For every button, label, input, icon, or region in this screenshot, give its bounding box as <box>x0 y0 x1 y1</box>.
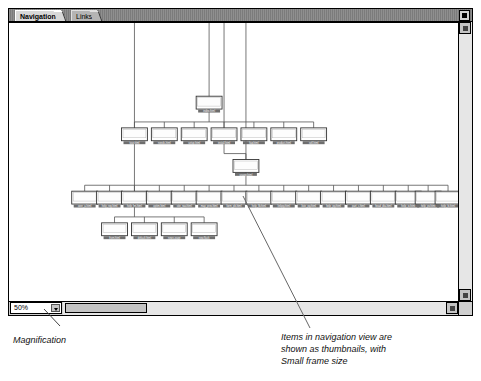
tree-node[interactable]: faq.html <box>241 128 267 145</box>
tree-node[interactable]: optim.html <box>146 191 172 208</box>
node-label: product.html <box>277 141 292 145</box>
node-thumbnail-inner <box>297 193 320 201</box>
tree-node[interactable]: default.html <box>131 223 157 240</box>
tree-node[interactable]: site_nav.html <box>171 191 197 208</box>
magnification-select[interactable]: 50% <box>10 302 62 314</box>
node-label: index.html <box>203 109 215 113</box>
node-thumbnail-inner <box>73 193 96 201</box>
node-label: optim.html <box>153 204 165 208</box>
chevron-down-icon[interactable] <box>51 304 60 312</box>
node-thumbnail-inner <box>173 193 196 201</box>
node-thumbnail-inner <box>372 193 395 201</box>
tree-node[interactable]: over_a.html <box>72 191 98 208</box>
tree-node[interactable]: map_prev.html <box>196 191 222 208</box>
vscroll-track[interactable] <box>459 22 472 301</box>
tab-strip: Navigation Links <box>9 9 472 22</box>
tree-node[interactable]: liste_pg.html <box>296 191 322 208</box>
node-thumbnail-inner <box>347 193 370 201</box>
horizontal-scrollbar[interactable]: 50% <box>9 301 458 315</box>
close-icon[interactable] <box>459 10 470 21</box>
node-label: form_pb.html <box>226 204 242 208</box>
node-label: from.html <box>109 236 120 240</box>
node-label: help_fm.html <box>127 204 142 208</box>
tab-links-skew <box>90 11 104 22</box>
navigation-window: Navigation Links index.htmltour.htmlneed… <box>8 8 473 316</box>
node-thumbnail-inner <box>163 224 186 232</box>
node-label: install.html <box>218 141 231 145</box>
node-label: tour.html <box>129 141 139 145</box>
vertical-scrollbar[interactable] <box>458 22 472 301</box>
navigation-tree: index.htmltour.htmlneeds.htmlsetup.htmli… <box>9 23 458 301</box>
node-label: default.html <box>138 236 152 240</box>
scroll-down-arrow-icon[interactable] <box>459 289 471 301</box>
node-label: sell.html <box>309 141 319 145</box>
tree-node[interactable]: tour.html <box>121 128 147 145</box>
node-thumbnail-inner <box>322 193 345 201</box>
node-thumbnail-inner <box>272 129 295 137</box>
tree-node[interactable]: needs.html <box>151 128 177 145</box>
hscroll-thumb[interactable] <box>65 303 147 313</box>
node-thumbnail-inner <box>103 224 126 232</box>
tree-node[interactable]: product.html <box>271 128 297 145</box>
tree-node[interactable]: help_fb.html <box>246 191 272 208</box>
tab-navigation-label: Navigation <box>20 13 56 20</box>
node-label: needs.html <box>158 141 171 145</box>
tree-node[interactable]: new.flash <box>191 223 217 240</box>
node-label: part_c.html <box>352 204 365 208</box>
tree-node[interactable]: from.html <box>102 223 128 240</box>
node-thumbnail-inner <box>272 193 295 201</box>
node-thumbnail-inner <box>198 98 221 106</box>
node-thumbnail-inner <box>234 161 257 169</box>
node-thumbnail-inner <box>183 129 206 137</box>
node-label: help_pv.html <box>421 204 436 208</box>
node-thumbnail-inner <box>437 193 458 201</box>
tree-node[interactable]: help_fx.html <box>435 191 458 208</box>
tree-node[interactable]: setup.html <box>181 128 207 145</box>
node-thumbnail-inner <box>213 129 236 137</box>
node-thumbnail-inner <box>133 224 156 232</box>
node-label: usage.html <box>240 173 253 177</box>
node-thumbnail-inner <box>123 129 146 137</box>
node-thumbnail-inner <box>247 193 270 201</box>
magnification-value: 50% <box>14 304 28 311</box>
tree-node[interactable]: linkpg.html <box>271 191 297 208</box>
node-label: help_ix.html <box>401 204 415 208</box>
annotation-thumbnails: Items in navigation view are shown as th… <box>281 331 392 367</box>
node-thumbnail-inner <box>193 224 216 232</box>
node-label: faq.html <box>249 141 259 145</box>
tree-node[interactable]: install.html <box>211 128 237 145</box>
tab-navigation[interactable]: Navigation <box>15 10 62 22</box>
tree-node[interactable]: usage.html <box>233 160 259 177</box>
node-thumbnail-inner <box>198 193 221 201</box>
tree-node[interactable]: index.html <box>196 96 222 113</box>
node-thumbnail-inner <box>242 129 265 137</box>
tree-node[interactable]: help_pg.html <box>321 191 347 208</box>
node-label: site_nav.html <box>177 204 192 208</box>
resize-corner[interactable] <box>458 301 472 315</box>
node-label: linkpg.html <box>278 204 291 208</box>
node-thumbnail-inner <box>98 193 121 201</box>
navigation-canvas[interactable]: index.htmltour.htmlneeds.htmlsetup.htmli… <box>9 22 458 301</box>
annotation-magnification: Magnification <box>13 334 66 346</box>
tree-node[interactable]: help_reg.html <box>97 191 123 208</box>
tree-node[interactable]: form_pb.html <box>221 191 247 208</box>
scroll-up-arrow-icon[interactable] <box>459 22 471 34</box>
node-label: setup.html <box>188 141 200 145</box>
node-label: map_prev.html <box>201 204 218 208</box>
node-label: head_dta.html <box>375 204 392 208</box>
node-thumbnail-inner <box>302 129 325 137</box>
node-label: new.flash <box>199 236 210 240</box>
tree-node[interactable]: head_dta.html <box>370 191 396 208</box>
node-label: help_reg.html <box>102 204 118 208</box>
tab-links[interactable]: Links <box>71 10 98 22</box>
scroll-right-arrow-icon[interactable] <box>446 302 458 314</box>
node-label: help_fb.html <box>252 204 267 208</box>
node-thumbnail-inner <box>153 129 176 137</box>
node-label: news.page <box>168 237 181 240</box>
tree-node[interactable]: sell.html <box>301 128 327 145</box>
tree-node[interactable]: help_fm.html <box>121 191 147 208</box>
tree-node[interactable]: news.page <box>161 223 187 240</box>
node-label: over_a.html <box>78 204 92 208</box>
node-thumbnail-inner <box>223 193 246 201</box>
tree-node[interactable]: part_c.html <box>346 191 372 208</box>
